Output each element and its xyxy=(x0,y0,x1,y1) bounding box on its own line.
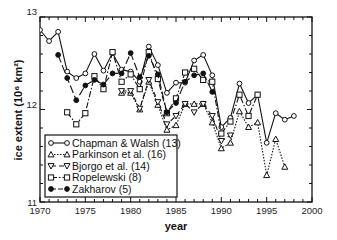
data-point xyxy=(165,110,170,115)
legend-label: Parkinson et al. (16) xyxy=(72,148,166,160)
x-tick-label: 1990 xyxy=(211,205,232,216)
data-point xyxy=(255,92,260,97)
data-point xyxy=(110,50,115,55)
data-point xyxy=(56,29,61,34)
data-point xyxy=(83,71,88,76)
data-point xyxy=(65,141,70,146)
legend-label: Zakharov (5) xyxy=(72,183,132,195)
data-point xyxy=(174,80,179,85)
data-point xyxy=(48,175,53,180)
data-point xyxy=(173,122,179,127)
data-point xyxy=(101,82,106,87)
data-point xyxy=(191,110,197,115)
data-point xyxy=(237,81,242,86)
data-point xyxy=(209,114,215,119)
data-point xyxy=(128,51,133,56)
data-point xyxy=(282,117,287,122)
data-point xyxy=(219,131,224,136)
data-point xyxy=(246,113,251,118)
data-point xyxy=(192,73,197,78)
data-point xyxy=(155,63,160,68)
data-point xyxy=(246,124,252,129)
data-point xyxy=(83,83,88,88)
data-point xyxy=(65,110,70,115)
data-point xyxy=(83,111,88,116)
x-tick-label: 2000 xyxy=(301,205,322,216)
data-point xyxy=(228,119,233,124)
data-point xyxy=(210,90,215,95)
data-point xyxy=(74,76,79,81)
data-point xyxy=(155,72,160,77)
y-tick-label: 11 xyxy=(27,197,37,208)
data-point xyxy=(246,101,251,106)
data-point xyxy=(64,175,69,180)
data-point xyxy=(38,28,43,33)
data-point xyxy=(182,70,187,75)
data-point xyxy=(74,122,79,127)
data-point xyxy=(49,141,54,146)
legend: Chapman & Walsh (13)Parkinson et al. (16… xyxy=(45,135,181,197)
data-point xyxy=(137,87,142,92)
x-axis-label: year xyxy=(165,220,188,232)
data-point xyxy=(264,172,270,177)
data-point xyxy=(282,164,288,169)
ice-extent-chart: 1970197519801985199019952000111213 Chapm… xyxy=(0,0,337,240)
data-point xyxy=(273,111,278,116)
y-tick-label: 13 xyxy=(26,6,37,17)
data-point xyxy=(210,73,215,78)
x-tick-label: 1995 xyxy=(256,205,277,216)
data-point xyxy=(146,44,151,49)
data-point xyxy=(49,187,54,192)
data-point xyxy=(65,187,70,192)
data-point xyxy=(146,53,151,58)
legend-label: Chapman & Walsh (13) xyxy=(72,137,181,149)
x-tick-label: 1980 xyxy=(120,205,141,216)
data-point xyxy=(74,98,79,103)
data-point xyxy=(183,79,188,84)
x-tick-label: 1975 xyxy=(75,205,96,216)
data-point xyxy=(47,39,52,44)
data-point xyxy=(192,58,197,63)
data-point xyxy=(201,71,206,76)
data-point xyxy=(174,101,179,106)
data-point xyxy=(218,145,224,150)
data-point xyxy=(201,53,206,58)
data-point xyxy=(56,53,61,58)
data-point xyxy=(128,72,133,77)
data-point xyxy=(236,108,242,113)
data-point xyxy=(273,136,279,141)
data-point xyxy=(227,140,233,145)
data-point xyxy=(119,71,124,76)
data-point xyxy=(165,90,170,95)
data-point xyxy=(237,92,242,97)
data-point xyxy=(255,119,261,124)
y-axis-label: ice extent (10⁶ km²) xyxy=(12,59,24,160)
data-point xyxy=(218,139,224,144)
data-point xyxy=(291,114,296,119)
y-tick-label: 12 xyxy=(26,99,37,110)
data-point xyxy=(101,68,106,73)
data-point xyxy=(92,78,97,83)
data-point xyxy=(119,79,124,84)
x-tick-label: 1985 xyxy=(165,205,186,216)
legend-label: Ropelewski (8) xyxy=(72,171,141,183)
data-point xyxy=(65,69,70,74)
data-point xyxy=(137,75,142,80)
data-point xyxy=(155,100,161,105)
data-point xyxy=(264,140,269,145)
data-point xyxy=(65,76,70,81)
data-point xyxy=(192,66,197,71)
data-point xyxy=(210,79,215,84)
data-point xyxy=(110,71,115,76)
legend-label: Bjorgo et al. (14) xyxy=(72,160,150,172)
data-point xyxy=(92,52,97,57)
